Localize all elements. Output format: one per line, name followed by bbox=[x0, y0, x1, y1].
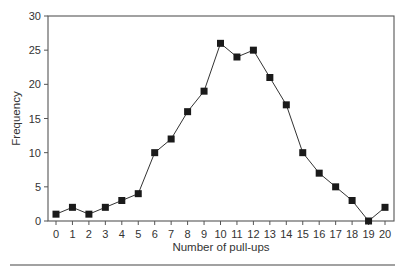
y-tick-label: 30 bbox=[29, 10, 41, 22]
y-tick-label: 25 bbox=[29, 44, 41, 56]
x-tick-label: 14 bbox=[280, 228, 292, 240]
data-point-marker bbox=[53, 211, 60, 218]
y-axis-title: Frequency bbox=[10, 91, 22, 146]
data-point-marker bbox=[201, 88, 208, 95]
x-tick-label: 15 bbox=[297, 228, 309, 240]
data-point-marker bbox=[151, 149, 158, 156]
x-tick-label: 17 bbox=[330, 228, 342, 240]
x-tick-label: 9 bbox=[201, 228, 207, 240]
x-tick-label: 3 bbox=[102, 228, 108, 240]
x-axis-title: Number of pull-ups bbox=[172, 241, 269, 253]
data-point-marker bbox=[168, 136, 175, 143]
data-point-marker bbox=[316, 170, 323, 177]
x-tick-label: 12 bbox=[247, 228, 259, 240]
x-tick-label: 7 bbox=[168, 228, 174, 240]
data-point-marker bbox=[299, 149, 306, 156]
data-point-marker bbox=[135, 190, 142, 197]
data-point-marker bbox=[266, 74, 273, 81]
x-tick-label: 13 bbox=[264, 228, 276, 240]
series-line bbox=[56, 43, 385, 221]
data-point-marker bbox=[102, 204, 109, 211]
data-point-marker bbox=[382, 204, 389, 211]
x-tick-label: 0 bbox=[53, 228, 59, 240]
x-tick-label: 10 bbox=[214, 228, 226, 240]
x-axis: 01234567891011121314151617181920 bbox=[53, 221, 391, 240]
x-tick-label: 6 bbox=[152, 228, 158, 240]
data-point-marker bbox=[85, 211, 92, 218]
data-point-marker bbox=[332, 183, 339, 190]
y-tick-label: 10 bbox=[29, 147, 41, 159]
data-point-marker bbox=[69, 204, 76, 211]
data-point-marker bbox=[365, 218, 372, 225]
y-tick-label: 0 bbox=[35, 215, 41, 227]
x-tick-label: 16 bbox=[313, 228, 325, 240]
x-tick-label: 2 bbox=[86, 228, 92, 240]
y-tick-label: 20 bbox=[29, 78, 41, 90]
data-point-marker bbox=[118, 197, 125, 204]
data-point-marker bbox=[184, 108, 191, 115]
x-tick-label: 5 bbox=[135, 228, 141, 240]
x-tick-label: 8 bbox=[185, 228, 191, 240]
data-point-marker bbox=[283, 101, 290, 108]
x-tick-label: 20 bbox=[379, 228, 391, 240]
x-tick-label: 19 bbox=[362, 228, 374, 240]
data-series bbox=[53, 40, 389, 225]
y-tick-label: 5 bbox=[35, 181, 41, 193]
y-tick-label: 15 bbox=[29, 113, 41, 125]
data-point-marker bbox=[349, 197, 356, 204]
x-tick-label: 1 bbox=[69, 228, 75, 240]
x-tick-label: 4 bbox=[119, 228, 125, 240]
frequency-line-chart: 051015202530 012345678910111213141516171… bbox=[0, 0, 408, 275]
data-point-marker bbox=[233, 54, 240, 61]
data-point-marker bbox=[250, 47, 257, 54]
y-axis: 051015202530 bbox=[29, 10, 48, 227]
data-point-marker bbox=[217, 40, 224, 47]
x-tick-label: 18 bbox=[346, 228, 358, 240]
x-tick-label: 11 bbox=[231, 228, 242, 240]
